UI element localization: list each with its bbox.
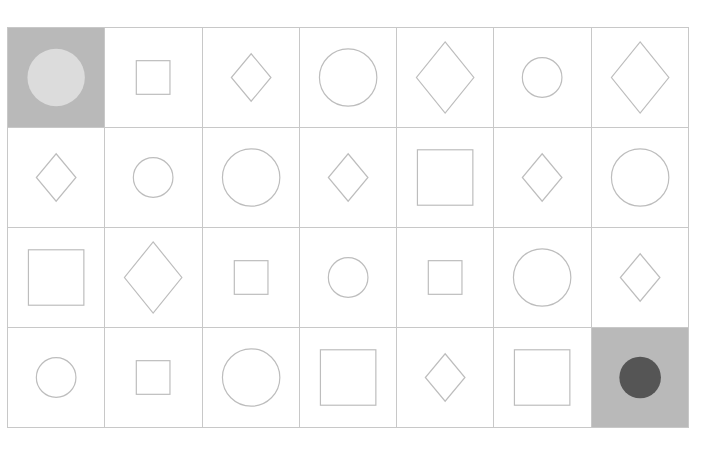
board-cell-r2-c6[interactable] — [591, 227, 689, 328]
small-diamond-icon — [592, 228, 688, 327]
large-square-icon — [8, 228, 104, 327]
board-cell-r2-c4[interactable] — [396, 227, 494, 328]
board-cell-r0-c6[interactable] — [591, 27, 689, 128]
large-circle-icon — [300, 28, 396, 127]
board-cell-r1-c0[interactable] — [7, 127, 105, 228]
board-cell-r2-c3[interactable] — [299, 227, 397, 328]
large-circle-icon — [203, 328, 299, 427]
board-cell-r0-c1[interactable] — [104, 27, 202, 128]
small-circle-icon — [494, 28, 590, 127]
small-circle-icon — [300, 228, 396, 327]
board-cell-r0-c4[interactable] — [396, 27, 494, 128]
board-cell-r0-c5[interactable] — [493, 27, 591, 128]
large-diamond-icon — [397, 28, 493, 127]
board-cell-r3-c6[interactable] — [591, 327, 689, 428]
large-diamond-icon — [105, 228, 201, 327]
board-cell-r3-c3[interactable] — [299, 327, 397, 428]
small-diamond-icon — [203, 28, 299, 127]
board-cell-r1-c5[interactable] — [493, 127, 591, 228]
large-square-icon — [397, 128, 493, 227]
board-cell-r3-c0[interactable] — [7, 327, 105, 428]
board-cell-r2-c1[interactable] — [104, 227, 202, 328]
board-cell-r0-c0[interactable] — [7, 27, 105, 128]
small-diamond-icon — [494, 128, 590, 227]
board-cell-r1-c6[interactable] — [591, 127, 689, 228]
board-cell-r1-c4[interactable] — [396, 127, 494, 228]
large-square-icon — [300, 328, 396, 427]
large-circle-icon — [592, 128, 688, 227]
large-circle-icon — [494, 228, 590, 327]
small-square-icon — [105, 28, 201, 127]
board-cell-r3-c4[interactable] — [396, 327, 494, 428]
large-circle-icon — [203, 128, 299, 227]
small-diamond-icon — [8, 128, 104, 227]
board-cell-r1-c2[interactable] — [202, 127, 300, 228]
board-cell-r2-c2[interactable] — [202, 227, 300, 328]
board-cell-r2-c0[interactable] — [7, 227, 105, 328]
board-cell-r3-c2[interactable] — [202, 327, 300, 428]
large-diamond-icon — [592, 28, 688, 127]
small-circle-icon — [105, 128, 201, 227]
small-square-icon — [203, 228, 299, 327]
board-cell-r2-c5[interactable] — [493, 227, 591, 328]
board-cell-r0-c2[interactable] — [202, 27, 300, 128]
board-cell-r3-c1[interactable] — [104, 327, 202, 428]
board-cell-r3-c5[interactable] — [493, 327, 591, 428]
small-diamond-icon — [397, 328, 493, 427]
small-circle-icon — [8, 328, 104, 427]
board-cell-r0-c3[interactable] — [299, 27, 397, 128]
small-square-icon — [105, 328, 201, 427]
small-diamond-icon — [300, 128, 396, 227]
small-square-icon — [397, 228, 493, 327]
board-cell-r1-c3[interactable] — [299, 127, 397, 228]
board-cell-r1-c1[interactable] — [104, 127, 202, 228]
puzzle-board — [7, 27, 688, 427]
goal-token-icon — [592, 328, 688, 427]
large-square-icon — [494, 328, 590, 427]
start-token-icon — [8, 28, 104, 127]
